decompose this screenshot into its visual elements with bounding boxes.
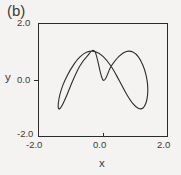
- x-tick-label-right: 2.0: [157, 139, 170, 150]
- y-tick-label-top: 2.0: [17, 17, 30, 28]
- x-tick-label-left: -2.0: [26, 139, 42, 150]
- y-tick-label-bottom: -2.0: [17, 128, 33, 139]
- y-tick-label-middle: 0.0: [17, 74, 30, 85]
- y-axis-label: y: [5, 71, 11, 83]
- orbit-curve: [58, 50, 148, 109]
- y-axis-tick-mark-zero: [34, 80, 38, 81]
- x-tick-label-middle: 0.0: [93, 139, 106, 150]
- plot-curve-layer: [38, 23, 168, 137]
- figure-panel: (b) 2.0 0.0 -2.0 -2.0 0.0 2.0 y x: [0, 0, 181, 175]
- x-axis-tick-mark-zero: [103, 133, 104, 137]
- x-axis-label: x: [99, 157, 105, 169]
